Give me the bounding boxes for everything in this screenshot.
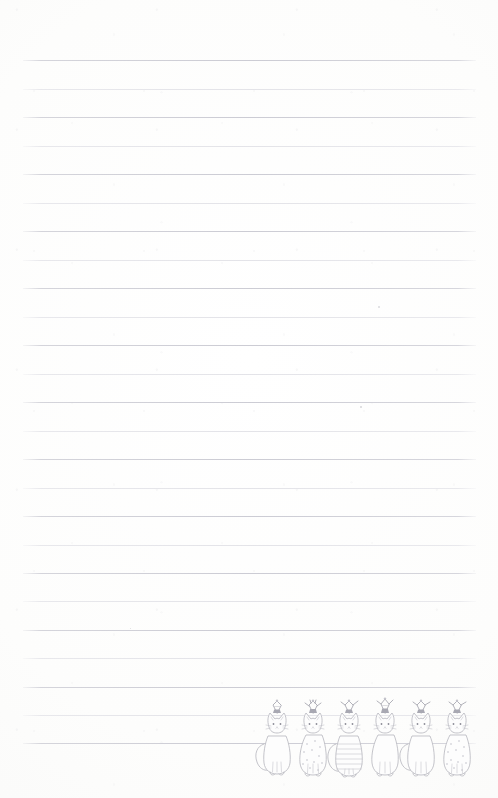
ruled-line-12	[23, 374, 476, 375]
ruled-line-20	[23, 601, 476, 602]
ruled-line-5	[23, 174, 476, 175]
ruled-line-10	[23, 317, 476, 318]
ruled-line-8	[23, 260, 476, 261]
ruled-line-7	[23, 231, 476, 232]
ruled-line-19	[23, 573, 476, 574]
ruled-line-11	[23, 345, 476, 346]
paper-speck-1	[378, 306, 380, 308]
notepad-page	[0, 0, 498, 798]
ruled-line-6	[23, 203, 476, 204]
ruled-line-24	[23, 715, 476, 716]
ruled-line-18	[23, 545, 476, 546]
ruled-line-22	[23, 658, 476, 659]
ruled-line-15	[23, 459, 476, 460]
ruled-line-23	[23, 687, 476, 688]
ruled-line-25	[23, 743, 476, 744]
ruled-line-9	[23, 288, 476, 289]
ruled-line-3	[23, 117, 476, 118]
ruled-line-14	[23, 431, 476, 432]
ruled-line-2	[23, 89, 476, 90]
ruled-line-16	[23, 488, 476, 489]
ruled-line-4	[23, 146, 476, 147]
ruled-line-1	[23, 60, 476, 61]
paper-speck-2	[360, 406, 362, 408]
ruled-line-17	[23, 516, 476, 517]
ruled-line-21	[23, 630, 476, 631]
ruled-line-13	[23, 402, 476, 403]
ruled-lines-group	[0, 0, 498, 798]
